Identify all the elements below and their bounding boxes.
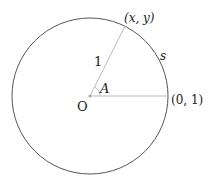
point-label: (x, y) (124, 11, 155, 25)
angle-label: A (99, 81, 109, 96)
arc-label: s (160, 49, 166, 63)
origin-label: O (77, 99, 88, 114)
unit-circle-diagram: O A 1 (x, y) s (0, 1) (0, 0, 210, 186)
origin-dot (88, 94, 91, 97)
axis-point-label: (0, 1) (171, 93, 203, 107)
radius-label: 1 (94, 54, 102, 69)
